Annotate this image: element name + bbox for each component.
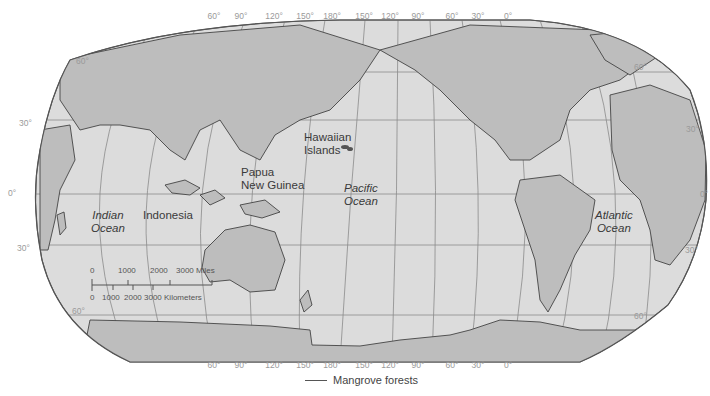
lon-label: 150°	[296, 360, 314, 370]
label-indian-ocean: Indian Ocean	[91, 209, 125, 235]
scale-miles-0: 0	[90, 266, 94, 275]
lat-label: 0°	[700, 189, 708, 199]
lat-label: 60°	[634, 62, 647, 72]
lat-label: 30°	[685, 245, 698, 255]
label-line: Pacific	[344, 182, 378, 195]
scale-miles-2000: 2000	[150, 266, 168, 275]
lon-label: 180°	[323, 11, 341, 21]
scale-km-0: 0	[90, 293, 94, 302]
scale-miles-3000: 3000 Miles	[176, 266, 215, 275]
lon-label: 60°	[446, 11, 459, 21]
scale-km-3000: 3000 Kilometers	[144, 293, 202, 302]
scale-km-2000: 2000	[124, 293, 142, 302]
lon-label: 0°	[504, 11, 512, 21]
lon-label: 90°	[235, 360, 248, 370]
label-line: Ocean	[344, 195, 378, 208]
lat-label: 30°	[686, 124, 699, 134]
lat-label: 60°	[72, 306, 85, 316]
lon-label: 120°	[381, 11, 399, 21]
label-indonesia: Indonesia	[143, 209, 193, 222]
mangrove-line-swatch	[305, 380, 327, 381]
lon-label: 180°	[323, 360, 341, 370]
label-line: Ocean	[91, 222, 125, 235]
scale-bar-ruler	[90, 277, 226, 293]
scale-bar: 0 1000 2000 3000 Miles 0 1000 2000 3000 …	[84, 266, 234, 308]
lon-label: 90°	[412, 11, 425, 21]
label-hawaiian-islands: Hawaiian Islands	[304, 131, 351, 157]
lat-label: 60°	[634, 311, 647, 321]
lon-label: 120°	[265, 360, 283, 370]
label-line: Hawaiian	[304, 131, 351, 144]
lat-label: 30°	[17, 243, 30, 253]
lon-label: 90°	[412, 360, 425, 370]
scale-km-1000: 1000	[102, 293, 120, 302]
lon-label: 150°	[355, 11, 373, 21]
scale-miles-1000: 1000	[118, 266, 136, 275]
lat-label: 60°	[76, 56, 89, 66]
map-legend: Mangrove forests	[305, 374, 418, 386]
label-line: Indian	[91, 209, 125, 222]
lat-label: 0°	[8, 188, 16, 198]
lon-label: 150°	[355, 360, 373, 370]
lat-label: 30°	[19, 118, 32, 128]
label-atlantic-ocean: Atlantic Ocean	[595, 209, 633, 235]
label-pacific-ocean: Pacific Ocean	[344, 182, 378, 208]
lon-label: 120°	[265, 11, 283, 21]
lon-label: 60°	[208, 11, 221, 21]
lon-label: 0°	[504, 360, 512, 370]
legend-label: Mangrove forests	[333, 374, 418, 386]
lon-label: 90°	[235, 11, 248, 21]
lon-label: 60°	[208, 360, 221, 370]
lon-label: 60°	[446, 360, 459, 370]
lon-label: 30°	[472, 11, 485, 21]
label-line: Papua	[241, 166, 304, 179]
lon-label: 120°	[381, 360, 399, 370]
lon-label: 30°	[472, 360, 485, 370]
lon-label: 150°	[296, 11, 314, 21]
label-papua-new-guinea: Papua New Guinea	[241, 166, 304, 192]
label-line: Islands	[304, 144, 351, 157]
label-line: Atlantic	[595, 209, 633, 222]
label-line: New Guinea	[241, 179, 304, 192]
label-line: Ocean	[595, 222, 633, 235]
